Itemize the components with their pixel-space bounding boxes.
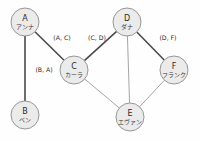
edge-label-a-b: (B, A) (35, 66, 52, 73)
node-id-b: B (22, 107, 28, 116)
node-name-c: カーラ (65, 71, 83, 78)
edge-label-a-c: (A, C) (53, 34, 70, 41)
node-id-d: D (124, 14, 130, 23)
edge-label-d-f: (D, F) (159, 34, 176, 41)
node-id-c: C (71, 62, 77, 71)
node-name-a: アンナ (16, 23, 34, 30)
node-name-d: ダナ (121, 23, 133, 31)
node-id-a: A (22, 14, 28, 23)
graph-node-b[interactable]: Bベン (11, 101, 39, 129)
graph-edge-d-e (127, 36, 129, 103)
node-name-e: エヴァン (118, 118, 142, 126)
graph-node-f[interactable]: Fフランク (160, 56, 188, 84)
graph-diagram: AアンナBベンCカーラDダナEエヴァンFフランク (B, A)(A, C)(C,… (0, 0, 200, 141)
graph-edge-c-e (85, 79, 120, 108)
graph-node-c[interactable]: Cカーラ (60, 56, 88, 84)
graph-node-e[interactable]: Eエヴァン (116, 103, 144, 131)
graph-edge-e-f (140, 80, 165, 107)
node-name-b: ベン (19, 116, 31, 123)
node-id-e: E (127, 109, 132, 118)
node-name-f: フランク (162, 71, 186, 78)
edge-label-c-d: (C, D) (88, 34, 106, 41)
graph-svg: AアンナBベンCカーラDダナEエヴァンFフランク (B, A)(A, C)(C,… (0, 0, 200, 141)
node-id-f: F (172, 62, 177, 71)
graph-node-d[interactable]: Dダナ (113, 8, 141, 36)
graph-node-a[interactable]: Aアンナ (11, 8, 39, 36)
